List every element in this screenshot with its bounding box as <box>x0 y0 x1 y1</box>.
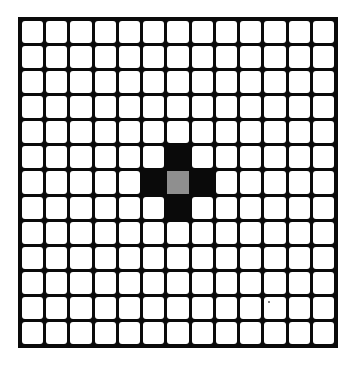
grid-cell <box>192 272 213 294</box>
grid-cell <box>289 197 310 219</box>
grid-cell <box>119 46 140 68</box>
grid-cell <box>192 322 213 344</box>
grid-cell <box>216 146 237 168</box>
grid-cell <box>143 272 164 294</box>
grid-cell <box>192 71 213 93</box>
grid-cell <box>240 171 261 193</box>
grid-cell <box>22 222 43 244</box>
grid-cell <box>46 171 67 193</box>
grid-cell <box>240 322 261 344</box>
grid-cell <box>167 21 188 43</box>
grid-cell <box>70 222 91 244</box>
grid-cell <box>70 96 91 118</box>
grid-cell <box>216 46 237 68</box>
filled-cell <box>167 146 188 168</box>
grid-cell <box>289 121 310 143</box>
grid-cell <box>216 71 237 93</box>
grid-cell <box>143 71 164 93</box>
grid-cell <box>46 247 67 269</box>
grid-cell <box>70 46 91 68</box>
grid-cell <box>240 297 261 319</box>
grid-cell <box>95 222 116 244</box>
grid-cell <box>167 322 188 344</box>
grid-cell <box>46 297 67 319</box>
grid-cell <box>216 171 237 193</box>
grid-cell <box>264 247 285 269</box>
grid-cell <box>119 322 140 344</box>
grid-cell <box>313 297 334 319</box>
grid-cell <box>192 121 213 143</box>
grid-cell <box>289 322 310 344</box>
grid-cell <box>22 46 43 68</box>
grid-cell <box>95 171 116 193</box>
grid-cell <box>95 146 116 168</box>
grid-cell <box>264 197 285 219</box>
grid-cell <box>264 297 285 319</box>
grid-cell <box>22 71 43 93</box>
grid-cell <box>240 272 261 294</box>
grid-cell <box>95 71 116 93</box>
grid-cell <box>143 21 164 43</box>
grid-cell <box>264 21 285 43</box>
grid-cell <box>95 322 116 344</box>
grid-cell <box>143 46 164 68</box>
grid-cell <box>313 96 334 118</box>
grid-cell <box>95 247 116 269</box>
grid-cell <box>264 71 285 93</box>
grid-cell <box>167 222 188 244</box>
filled-cell <box>192 171 213 193</box>
grid-cell <box>70 121 91 143</box>
grid-cell <box>240 71 261 93</box>
grid-cell <box>46 46 67 68</box>
grid-cell <box>22 21 43 43</box>
grid-cell <box>216 247 237 269</box>
grid-cell <box>95 297 116 319</box>
grid-cell <box>22 297 43 319</box>
grid-cell <box>192 146 213 168</box>
grid-cell <box>216 96 237 118</box>
grid-cell <box>46 146 67 168</box>
grid-cell <box>240 146 261 168</box>
grid-cell <box>70 197 91 219</box>
grid-cell <box>70 21 91 43</box>
grid-cell <box>143 247 164 269</box>
grid-cell <box>192 21 213 43</box>
grid-cell <box>192 247 213 269</box>
grid-cell <box>70 71 91 93</box>
grid-cell <box>313 21 334 43</box>
grid-cell <box>167 96 188 118</box>
grid-cell <box>289 222 310 244</box>
grid-cell <box>167 46 188 68</box>
grid-cell <box>22 197 43 219</box>
grid-cell <box>46 121 67 143</box>
grid-cell <box>192 96 213 118</box>
grid-cell <box>119 247 140 269</box>
grid-cell <box>95 96 116 118</box>
grid-cell <box>143 322 164 344</box>
grid-cell <box>46 96 67 118</box>
grid-cell <box>167 247 188 269</box>
grid-cell <box>240 46 261 68</box>
grid-cell <box>289 46 310 68</box>
grid-cell <box>240 247 261 269</box>
grid-cell <box>313 322 334 344</box>
grid-cell <box>95 272 116 294</box>
grid-cell <box>22 272 43 294</box>
grid-cell <box>70 297 91 319</box>
grid-cell <box>240 222 261 244</box>
grid-cell <box>46 222 67 244</box>
grid-cell <box>216 21 237 43</box>
grid-cell <box>216 222 237 244</box>
grid-cell <box>313 146 334 168</box>
grid-cell <box>240 121 261 143</box>
grid-cell <box>70 146 91 168</box>
grid-cell <box>313 272 334 294</box>
grid-cell <box>192 46 213 68</box>
filled-cell <box>167 197 188 219</box>
grid-cell <box>264 322 285 344</box>
grid-cell <box>167 272 188 294</box>
grid-cell <box>313 247 334 269</box>
grid-cell <box>143 121 164 143</box>
grid-cell <box>95 121 116 143</box>
grid-cell <box>192 222 213 244</box>
